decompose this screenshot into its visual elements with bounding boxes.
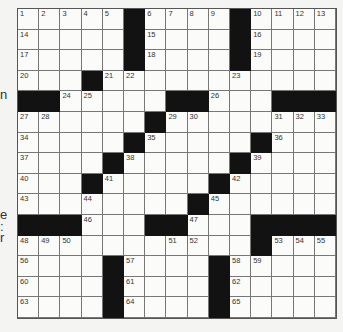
- grid-cell[interactable]: [60, 174, 81, 195]
- grid-cell[interactable]: [272, 30, 293, 51]
- grid-cell[interactable]: [294, 30, 315, 51]
- grid-cell[interactable]: [315, 277, 336, 298]
- grid-cell[interactable]: 47: [188, 215, 209, 236]
- grid-cell[interactable]: [315, 297, 336, 318]
- grid-cell[interactable]: 19: [251, 50, 272, 71]
- grid-cell[interactable]: [209, 30, 230, 51]
- grid-cell[interactable]: [82, 112, 103, 133]
- grid-cell[interactable]: [145, 297, 166, 318]
- grid-cell[interactable]: 8: [188, 9, 209, 30]
- grid-cell[interactable]: [145, 256, 166, 277]
- grid-cell[interactable]: [103, 30, 124, 51]
- grid-cell[interactable]: [82, 30, 103, 51]
- grid-cell[interactable]: 64: [124, 297, 145, 318]
- grid-cell[interactable]: 58: [230, 256, 251, 277]
- grid-cell[interactable]: [145, 91, 166, 112]
- grid-cell[interactable]: [124, 236, 145, 257]
- grid-cell[interactable]: [251, 297, 272, 318]
- grid-cell[interactable]: [60, 277, 81, 298]
- grid-cell[interactable]: [124, 112, 145, 133]
- grid-cell[interactable]: 65: [230, 297, 251, 318]
- grid-cell[interactable]: 51: [166, 236, 187, 257]
- grid-cell[interactable]: [294, 277, 315, 298]
- grid-cell[interactable]: 50: [60, 236, 81, 257]
- grid-cell[interactable]: [188, 277, 209, 298]
- grid-cell[interactable]: [103, 236, 124, 257]
- grid-cell[interactable]: 13: [315, 9, 336, 30]
- grid-cell[interactable]: [82, 50, 103, 71]
- grid-cell[interactable]: 3: [60, 9, 81, 30]
- grid-cell[interactable]: [315, 50, 336, 71]
- grid-cell[interactable]: [60, 71, 81, 92]
- grid-cell[interactable]: [294, 194, 315, 215]
- grid-cell[interactable]: [230, 133, 251, 154]
- grid-cell[interactable]: [166, 133, 187, 154]
- grid-cell[interactable]: [166, 277, 187, 298]
- grid-cell[interactable]: [124, 194, 145, 215]
- grid-cell[interactable]: 16: [251, 30, 272, 51]
- grid-cell[interactable]: [272, 277, 293, 298]
- grid-cell[interactable]: [294, 50, 315, 71]
- grid-cell[interactable]: [209, 215, 230, 236]
- grid-cell[interactable]: 28: [39, 112, 60, 133]
- grid-cell[interactable]: [315, 133, 336, 154]
- grid-cell[interactable]: 52: [188, 236, 209, 257]
- grid-cell[interactable]: [188, 153, 209, 174]
- grid-cell[interactable]: [145, 236, 166, 257]
- grid-cell[interactable]: [82, 277, 103, 298]
- grid-cell[interactable]: [124, 174, 145, 195]
- grid-cell[interactable]: 20: [18, 71, 39, 92]
- grid-cell[interactable]: [315, 256, 336, 277]
- grid-cell[interactable]: 41: [103, 174, 124, 195]
- grid-cell[interactable]: [315, 174, 336, 195]
- grid-cell[interactable]: [315, 194, 336, 215]
- grid-cell[interactable]: [166, 30, 187, 51]
- grid-cell[interactable]: 27: [18, 112, 39, 133]
- grid-cell[interactable]: 55: [315, 236, 336, 257]
- grid-cell[interactable]: 32: [294, 112, 315, 133]
- grid-cell[interactable]: [188, 50, 209, 71]
- grid-cell[interactable]: [166, 256, 187, 277]
- grid-cell[interactable]: [294, 297, 315, 318]
- grid-cell[interactable]: [39, 256, 60, 277]
- grid-cell[interactable]: 63: [18, 297, 39, 318]
- grid-cell[interactable]: [124, 91, 145, 112]
- grid-cell[interactable]: 35: [145, 133, 166, 154]
- grid-cell[interactable]: [251, 194, 272, 215]
- grid-cell[interactable]: [82, 256, 103, 277]
- grid-cell[interactable]: [272, 71, 293, 92]
- grid-cell[interactable]: [166, 50, 187, 71]
- grid-cell[interactable]: 21: [103, 71, 124, 92]
- grid-cell[interactable]: 26: [209, 91, 230, 112]
- grid-cell[interactable]: 42: [230, 174, 251, 195]
- grid-cell[interactable]: 59: [251, 256, 272, 277]
- grid-cell[interactable]: [166, 153, 187, 174]
- grid-cell[interactable]: [272, 256, 293, 277]
- grid-cell[interactable]: [145, 174, 166, 195]
- grid-cell[interactable]: [166, 297, 187, 318]
- grid-cell[interactable]: [294, 256, 315, 277]
- grid-cell[interactable]: [60, 50, 81, 71]
- grid-cell[interactable]: [230, 236, 251, 257]
- grid-cell[interactable]: [188, 133, 209, 154]
- grid-cell[interactable]: [230, 194, 251, 215]
- grid-cell[interactable]: 25: [82, 91, 103, 112]
- grid-cell[interactable]: 30: [188, 112, 209, 133]
- grid-cell[interactable]: [60, 133, 81, 154]
- grid-cell[interactable]: [188, 256, 209, 277]
- grid-cell[interactable]: [294, 174, 315, 195]
- grid-cell[interactable]: [272, 297, 293, 318]
- grid-cell[interactable]: 18: [145, 50, 166, 71]
- grid-cell[interactable]: [315, 153, 336, 174]
- grid-cell[interactable]: [60, 256, 81, 277]
- grid-cell[interactable]: 24: [60, 91, 81, 112]
- grid-cell[interactable]: [103, 112, 124, 133]
- grid-cell[interactable]: 60: [18, 277, 39, 298]
- grid-cell[interactable]: 45: [209, 194, 230, 215]
- grid-cell[interactable]: 49: [39, 236, 60, 257]
- grid-cell[interactable]: [272, 174, 293, 195]
- grid-cell[interactable]: [209, 71, 230, 92]
- grid-cell[interactable]: [82, 236, 103, 257]
- grid-cell[interactable]: 56: [18, 256, 39, 277]
- grid-cell[interactable]: [124, 215, 145, 236]
